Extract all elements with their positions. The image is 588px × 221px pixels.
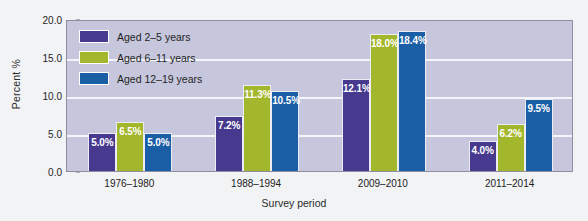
legend-item: Aged 12–19 years	[79, 69, 202, 88]
legend-swatch-icon	[79, 72, 109, 85]
bar: 6.2%	[497, 124, 525, 171]
bar: 6.5%	[116, 122, 144, 171]
bar: 4.0%	[469, 141, 497, 171]
bar-value-label: 12.1%	[343, 83, 369, 94]
bar: 12.1%	[342, 79, 370, 171]
bar-value-label: 9.5%	[526, 103, 552, 114]
legend-swatch-icon	[79, 51, 109, 64]
bar-value-label: 18.4%	[399, 35, 425, 46]
y-tick-label: 5.0	[18, 129, 62, 140]
legend-item: Aged 6–11 years	[79, 48, 202, 67]
bar-value-label: 5.0%	[145, 137, 171, 148]
legend-item: Aged 2–5 years	[79, 27, 202, 46]
bar-value-label: 6.2%	[498, 128, 524, 139]
bar: 18.0%	[370, 34, 398, 171]
x-category-label: 1988–1994	[231, 178, 281, 189]
x-category-label: 1976–1980	[104, 178, 154, 189]
bar: 18.4%	[398, 31, 426, 171]
bar: 11.3%	[243, 85, 271, 171]
bar: 5.0%	[144, 133, 172, 171]
bar-value-label: 7.2%	[216, 120, 242, 131]
y-axis-ticks: 0.05.010.015.020.0	[14, 0, 62, 221]
bar-value-label: 4.0%	[470, 145, 496, 156]
bar-value-label: 11.3%	[244, 89, 270, 100]
y-tick-label: 10.0	[18, 91, 62, 102]
bar-value-label: 18.0%	[371, 38, 397, 49]
bar-chart: Percent % 0.05.010.015.020.0 5.0%6.5%5.0…	[0, 0, 588, 221]
legend-label: Aged 6–11 years	[117, 52, 196, 64]
bar-value-label: 5.0%	[89, 137, 115, 148]
legend-swatch-icon	[79, 30, 109, 43]
bar: 9.5%	[525, 99, 553, 171]
bar: 7.2%	[215, 116, 243, 171]
bar: 10.5%	[271, 91, 299, 171]
bar-value-label: 10.5%	[272, 95, 298, 106]
y-tick-label: 0.0	[18, 167, 62, 178]
y-tick-label: 15.0	[18, 53, 62, 64]
x-category-label: 2011–2014	[485, 178, 534, 189]
x-category-label: 2009–2010	[358, 178, 408, 189]
legend-label: Aged 12–19 years	[117, 73, 202, 85]
legend-label: Aged 2–5 years	[117, 31, 191, 43]
y-tick-label: 20.0	[18, 15, 62, 26]
x-axis-title: Survey period	[0, 197, 588, 209]
gridline	[67, 97, 572, 99]
bar-value-label: 6.5%	[117, 126, 143, 137]
bar: 5.0%	[88, 133, 116, 171]
plot-area: 5.0%6.5%5.0%7.2%11.3%10.5%12.1%18.0%18.4…	[66, 20, 573, 172]
chart-legend: Aged 2–5 yearsAged 6–11 yearsAged 12–19 …	[79, 27, 202, 90]
